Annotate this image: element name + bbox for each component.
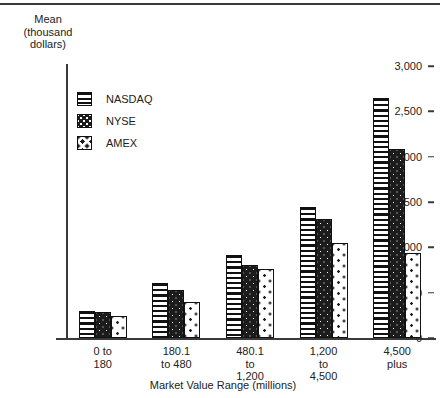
bar-amex-4 — [405, 253, 421, 338]
top-divider-rule — [0, 3, 440, 5]
bar-group — [300, 66, 348, 338]
legend-item-nasdaq: NASDAQ — [77, 88, 152, 110]
legend-item-nyse: NYSE — [77, 110, 152, 132]
y-axis-title: Mean (thousand dollars) — [6, 13, 90, 51]
bar-group — [373, 66, 421, 338]
bar-group — [226, 66, 274, 338]
x-axis-line — [56, 338, 436, 340]
bar-amex-0 — [111, 316, 127, 338]
y-tick-mark — [428, 65, 434, 67]
bar-amex-3 — [332, 243, 348, 338]
legend-label-amex: AMEX — [106, 137, 137, 149]
y-tick-mark — [428, 292, 434, 294]
legend-swatch-nasdaq — [77, 92, 92, 106]
bar-nasdaq-0 — [79, 311, 95, 338]
y-tick-mark — [428, 201, 434, 203]
y-tick-mark — [428, 247, 434, 249]
bar-nyse-0 — [95, 312, 111, 338]
y-tick-mark — [428, 111, 434, 113]
y-tick-mark — [428, 337, 434, 339]
bar-amex-1 — [184, 302, 200, 338]
bar-chart-figure: Mean (thousand dollars) 05001,0001,5002,… — [0, 0, 446, 398]
bar-nasdaq-2 — [226, 255, 242, 338]
x-tick-label: 0 to 180 — [94, 345, 112, 370]
bar-nyse-4 — [389, 149, 405, 338]
bar-amex-2 — [258, 269, 274, 338]
x-tick-label: 180.1 to 480 — [161, 345, 192, 370]
bar-nyse-1 — [168, 290, 184, 338]
bar-nasdaq-1 — [152, 283, 168, 338]
legend-label-nasdaq: NASDAQ — [106, 93, 152, 105]
x-axis-title: Market Value Range (millions) — [0, 379, 446, 391]
bar-nyse-3 — [316, 219, 332, 338]
x-tick-label: 1,200 to 4,500 — [310, 345, 338, 383]
x-tick-label: 4,500 plus — [383, 345, 411, 370]
bar-nasdaq-3 — [300, 207, 316, 338]
chart-legend: NASDAQ NYSE AMEX — [77, 88, 152, 154]
y-tick-mark — [428, 156, 434, 158]
legend-swatch-amex — [77, 136, 92, 150]
bar-nyse-2 — [242, 265, 258, 338]
bar-nasdaq-4 — [373, 98, 389, 338]
x-tick-label: 480.1 to 1,200 — [236, 345, 264, 383]
legend-swatch-nyse — [77, 114, 92, 128]
bar-group — [152, 66, 200, 338]
legend-item-amex: AMEX — [77, 132, 152, 154]
legend-label-nyse: NYSE — [106, 115, 136, 127]
